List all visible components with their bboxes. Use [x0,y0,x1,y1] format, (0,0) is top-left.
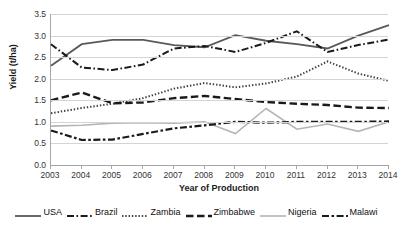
x-axis-tick-mark [204,165,205,169]
legend-swatch-zimbabwe [186,207,212,217]
legend-item-zambia[interactable]: Zambia [122,207,185,217]
gridline [51,36,388,37]
x-axis-tick-mark [111,165,112,169]
legend-swatch-nigeria [260,207,286,217]
series-line-usa [51,25,389,66]
legend-label: Zambia [150,207,180,217]
x-axis-tick-label: 2004 [71,170,90,180]
x-axis-tick-mark [234,165,235,169]
x-axis-tick-label: 2014 [379,170,398,180]
legend-item-usa[interactable]: USA [15,207,67,217]
x-axis-tick-mark [173,165,174,169]
y-axis-title: Yield (t/ha) [8,27,18,107]
y-axis-tick-label: 2.5 [34,52,46,62]
x-axis-tick-label: 2012 [317,170,336,180]
legend-item-zimbabwe[interactable]: Zimbabwe [186,207,261,217]
x-axis-tick-mark [142,165,143,169]
gridline [51,122,388,123]
x-axis-tick-label: 2005 [102,170,121,180]
x-axis-tick-mark [81,165,82,169]
x-axis-tick-label: 2007 [163,170,182,180]
legend-item-nigeria[interactable]: Nigeria [260,207,322,217]
gridline [51,14,388,15]
y-axis-tick-label: 1.0 [34,117,46,127]
x-axis-tick-mark [388,165,389,169]
x-axis-tick-label: 2006 [133,170,152,180]
legend-swatch-malawi [322,207,348,217]
y-axis-tick-label: 0.0 [34,160,46,170]
legend-label: Brazil [95,207,118,217]
legend-item-malawi[interactable]: Malawi [322,207,383,217]
x-axis-tick-label: 2011 [287,170,305,180]
y-axis-tick-label: 2.0 [34,74,46,84]
x-axis-tick-mark [50,165,51,169]
y-axis-tick-label: 1.5 [34,95,46,105]
legend-swatch-zambia [122,207,148,217]
series-line-brazil [51,31,389,70]
gridline [51,79,388,80]
legend-swatch-brazil [67,207,93,217]
chart-figure: Yield (t/ha) 0.00.51.01.52.02.53.03.5 20… [0,0,398,226]
chart-legend: USABrazilZambiaZimbabweNigeriaMalawi [0,203,398,221]
legend-label: Nigeria [288,207,317,217]
x-axis-tick-mark [296,165,297,169]
x-axis-tick-labels: 2003200420052006200720082009201020112012… [50,170,388,184]
x-axis-tick-label: 2010 [256,170,275,180]
x-axis-tick-mark [357,165,358,169]
y-axis-tick-label: 0.5 [34,138,46,148]
gridline [51,57,388,58]
legend-label: Malawi [350,207,378,217]
x-axis-tick-label: 2009 [225,170,244,180]
x-axis-tick-label: 2003 [41,170,60,180]
legend-item-brazil[interactable]: Brazil [67,207,123,217]
y-axis-tick-labels: 0.00.51.01.52.02.53.03.5 [22,0,46,172]
y-axis-tick-label: 3.0 [34,31,46,41]
legend-swatch-usa [15,207,41,217]
x-axis-title: Year of Production [50,183,388,193]
x-axis-tick-mark [265,165,266,169]
x-axis-tick-label: 2008 [194,170,213,180]
x-axis-tick-mark [327,165,328,169]
legend-label: Zimbabwe [214,207,256,217]
gridline [51,143,388,144]
gridline [51,100,388,101]
series-line-nigeria [51,108,389,133]
legend-label: USA [43,207,62,217]
y-axis-tick-label: 3.5 [34,9,46,19]
x-axis-tick-label: 2013 [348,170,367,180]
plot-area [50,14,388,165]
